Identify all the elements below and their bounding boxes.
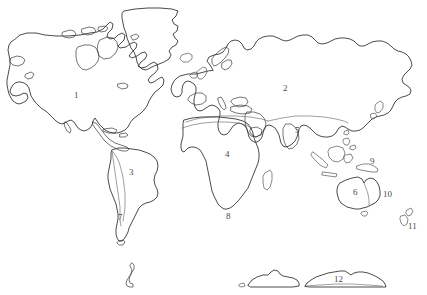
island-new-zealand-north [406,208,413,216]
landmass-eurasia [171,35,412,147]
antarctic-peninsula [126,263,134,287]
landmass-greenland [122,8,178,70]
great-lakes-detail [118,83,128,89]
region-label-5: 5 [295,126,300,135]
arctic-archipelago-detail [62,30,76,38]
africa-sahara-divider [182,122,251,128]
alaska-detail [10,56,25,66]
horn-of-africa [250,127,262,137]
island-japan [375,101,383,113]
region-label-11: 11 [408,222,417,231]
baffin-island [97,37,118,59]
island-madagascar [263,170,272,190]
island-taiwan [344,130,349,135]
landmass-north-america [7,22,164,133]
island-sulawesi [344,154,353,163]
eurasia-internal-divider-asia [268,116,348,123]
antarctica-internal-divider [306,284,382,286]
region-label-8: 8 [226,212,231,221]
region-label-4: 4 [225,150,230,159]
landmass-australia [337,177,380,209]
tierra-del-fuego [117,240,125,245]
iberian-peninsula [188,93,206,105]
island-sumatra [311,152,328,168]
antarctic-small-island [239,283,245,287]
hudson-bay-outline [76,45,99,70]
landmass-antarctica-right [305,271,386,287]
island-philippines [343,138,350,145]
landmass-antarctica-left [248,270,299,287]
region-label-10: 10 [383,190,392,199]
island-philippines-2 [350,145,356,150]
island-hispaniola [120,133,128,137]
italy-peninsula [218,97,226,110]
region-label-3: 3 [129,168,134,177]
australia-internal-divider [364,183,369,205]
island-iceland [180,53,192,62]
arctic-island-2 [82,27,96,35]
vancouver-island [25,72,34,79]
south-america-divider-2 [112,151,125,221]
island-tasmania [361,211,368,216]
region-label-7: 7 [118,213,123,222]
region-label-12: 12 [334,275,343,284]
region-label-1: 1 [74,91,79,100]
world-map-svg [0,0,427,295]
island-new-zealand-south [400,215,408,226]
world-map-figure: 1 2 3 4 5 6 7 8 9 10 11 12 [0,0,427,295]
baja-california [64,122,71,133]
baltic-detail [222,60,232,70]
landmass-central-america [93,122,129,151]
region-label-2: 2 [283,84,288,93]
region-label-6: 6 [353,188,358,197]
region-label-9: 9 [370,157,375,166]
island-borneo [328,146,345,162]
greenland-fjord-detail [131,34,139,40]
scandinavia-detail [212,47,229,66]
island-java [322,172,337,177]
landmass-south-america [108,148,158,241]
